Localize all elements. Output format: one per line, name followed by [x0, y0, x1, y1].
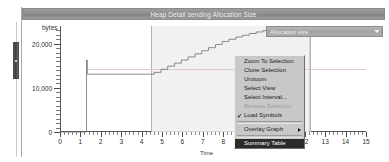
y-axis-minor-tick: [56, 119, 60, 120]
x-axis-tick: [121, 132, 122, 137]
x-axis-minor-tick: [362, 132, 363, 135]
y-axis-tick-label: 0: [14, 129, 52, 136]
x-axis-tick-label: 5: [160, 138, 164, 145]
x-axis-minor-tick: [207, 132, 208, 135]
series-allocation-size: [60, 26, 366, 132]
x-axis-tick-label: 4: [140, 138, 144, 145]
x-axis-minor-tick: [219, 132, 220, 135]
x-axis-minor-tick: [109, 132, 110, 135]
x-axis-tick-label: 0: [58, 138, 62, 145]
x-axis-tick: [101, 132, 102, 137]
x-axis-tick: [223, 132, 224, 137]
menu-item-load-symbols[interactable]: ✔Load Symbols: [235, 111, 304, 120]
y-axis-minor-tick: [56, 35, 60, 36]
y-axis-minor-tick: [56, 39, 60, 40]
menu-item-label: Zoom To Selection: [244, 58, 294, 64]
x-axis-minor-tick: [64, 132, 65, 135]
y-axis-minor-tick: [56, 106, 60, 107]
y-axis-minor-tick: [56, 70, 60, 71]
x-axis-tick-label: 1: [79, 138, 83, 145]
menu-item-label: Overlay Graph: [244, 126, 283, 132]
y-axis-minor-tick: [56, 30, 60, 31]
menu-item-label: Select View: [244, 85, 275, 91]
x-axis-minor-tick: [68, 132, 69, 135]
y-axis-tick-label: 10,000: [14, 84, 52, 91]
x-axis-minor-tick: [231, 132, 232, 135]
menu-item-unzoom[interactable]: Unzoom: [235, 75, 304, 84]
x-axis-minor-tick: [72, 132, 73, 135]
x-axis-minor-tick: [158, 132, 159, 135]
x-axis-minor-tick: [170, 132, 171, 135]
x-axis-tick-label: 8: [221, 138, 225, 145]
menu-item-select-view[interactable]: Select View: [235, 84, 304, 93]
graph-type-dropdown[interactable]: Allocation size: [266, 26, 383, 37]
x-axis-title: Time: [200, 150, 213, 156]
x-axis-minor-tick: [89, 132, 90, 135]
chevron-down-icon: [374, 30, 380, 33]
menu-separator: [237, 121, 302, 124]
x-axis-minor-tick: [146, 132, 147, 135]
y-axis-minor-tick: [56, 83, 60, 84]
x-axis-minor-tick: [154, 132, 155, 135]
window-titlebar[interactable]: Heap Detail sending Allocation Size: [22, 8, 385, 20]
x-axis-tick: [162, 132, 163, 137]
x-axis-tick: [60, 132, 61, 137]
menu-item-restore-selection: Restore Selection: [235, 102, 304, 111]
x-axis-minor-tick: [354, 132, 355, 135]
y-axis-minor-tick: [56, 110, 60, 111]
x-axis-minor-tick: [138, 132, 139, 135]
y-axis-minor-tick: [56, 114, 60, 115]
x-axis-minor-tick: [76, 132, 77, 135]
x-axis-minor-tick: [227, 132, 228, 135]
x-axis-minor-tick: [191, 132, 192, 135]
menu-item-select-interval[interactable]: Select Interval...: [235, 93, 304, 102]
y-axis-minor-tick: [56, 61, 60, 62]
x-axis-tick-label: 13: [322, 138, 329, 145]
y-axis-minor-tick: [56, 66, 60, 67]
y-axis-minor-tick: [56, 97, 60, 98]
x-axis-minor-tick: [93, 132, 94, 135]
y-axis-minor-tick: [56, 92, 60, 93]
x-axis-tick-label: 2: [99, 138, 103, 145]
vertical-scrollbar-thumb[interactable]: [13, 42, 19, 79]
x-axis-tick: [142, 132, 143, 137]
x-axis-minor-tick: [350, 132, 351, 135]
heap-detail-window: Heap Detail sending Allocation Size byte…: [0, 0, 389, 162]
x-axis-minor-tick: [178, 132, 179, 135]
menu-item-clone-selection[interactable]: Clone Selection: [235, 66, 304, 75]
menu-item-label: Clone Selection: [244, 67, 286, 73]
x-axis-minor-tick: [337, 132, 338, 135]
x-axis-tick-label: 15: [362, 138, 369, 145]
x-axis-minor-tick: [84, 132, 85, 135]
x-axis-minor-tick: [150, 132, 151, 135]
y-axis-minor-tick: [56, 48, 60, 49]
menu-item-label: Select Interval...: [244, 94, 287, 100]
window-title: Heap Detail sending Allocation Size: [23, 10, 384, 19]
menu-item-summary-table[interactable]: Summary Table: [235, 139, 304, 148]
menu-item-label: Load Symbols: [244, 112, 282, 118]
x-axis-minor-tick: [199, 132, 200, 135]
x-axis-minor-tick: [313, 132, 314, 135]
x-axis-minor-tick: [342, 132, 343, 135]
y-axis-minor-tick: [56, 128, 60, 129]
x-axis-minor-tick: [105, 132, 106, 135]
menu-item-overlay-graph[interactable]: Overlay Graph: [235, 125, 304, 134]
x-axis-minor-tick: [129, 132, 130, 135]
x-axis-minor-tick: [97, 132, 98, 135]
menu-item-zoom-to-selection[interactable]: Zoom To Selection: [235, 57, 304, 66]
x-axis-tick: [203, 132, 204, 137]
x-axis-tick-label: 6: [181, 138, 185, 145]
x-axis-tick-label: 7: [201, 138, 205, 145]
y-axis-minor-tick: [56, 57, 60, 58]
x-axis-minor-tick: [211, 132, 212, 135]
x-axis-minor-tick: [125, 132, 126, 135]
chevron-right-icon: [298, 128, 301, 132]
x-axis-minor-tick: [358, 132, 359, 135]
x-axis-minor-tick: [309, 132, 310, 135]
graph-context-menu[interactable]: Zoom To SelectionClone SelectionUnzoomSe…: [234, 55, 305, 149]
x-axis-minor-tick: [195, 132, 196, 135]
menu-item-label: Unzoom: [244, 76, 266, 82]
x-axis-tick: [182, 132, 183, 137]
x-axis-minor-tick: [215, 132, 216, 135]
y-axis-minor-tick: [56, 79, 60, 80]
